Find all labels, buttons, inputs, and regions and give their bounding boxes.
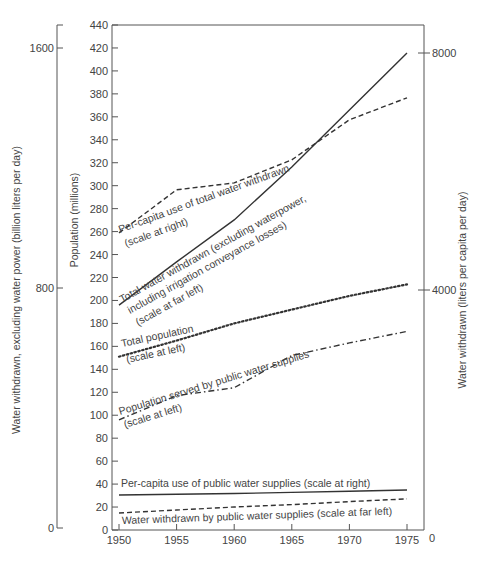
svg-text:800: 800 bbox=[36, 282, 54, 294]
x-axis-ticks bbox=[119, 524, 407, 530]
series-labels: Per-capita use of total water withdrawn … bbox=[117, 162, 393, 526]
left-axis-tick-label: 240 bbox=[90, 249, 108, 261]
far-left-axis bbox=[57, 25, 63, 528]
left-axis-tick-label: 40 bbox=[96, 478, 108, 490]
left-axis-tick-label: 420 bbox=[90, 42, 108, 54]
left-axis-tick-label: 200 bbox=[90, 294, 108, 306]
svg-text:0: 0 bbox=[48, 522, 54, 534]
left-axis-tick-label: 260 bbox=[90, 226, 108, 238]
svg-text:0: 0 bbox=[429, 532, 435, 544]
x-axis-tick-label: 1950 bbox=[107, 534, 131, 546]
x-axis-tick-label: 1955 bbox=[164, 534, 188, 546]
right-axis-title: Water withdrawn (liters per capita per d… bbox=[456, 192, 468, 389]
left-axis-ticks bbox=[112, 25, 118, 530]
left-axis-tick-label: 220 bbox=[90, 272, 108, 284]
left-axis-title: Population (millions) bbox=[68, 173, 80, 268]
x-axis-tick-label: 1975 bbox=[395, 534, 419, 546]
series-per-capita-public bbox=[119, 490, 407, 495]
left-axis-tick-label: 300 bbox=[90, 180, 108, 192]
svg-text:8000: 8000 bbox=[432, 47, 456, 59]
svg-text:1600: 1600 bbox=[30, 42, 54, 54]
left-axis-tick-labels: 0204060801001201401601802002202402602803… bbox=[90, 19, 108, 536]
label-total-withdrawn: Total water withdrawn (excluding waterpo… bbox=[117, 192, 308, 305]
label-public-withdrawn: Water withdrawn by public water supplies… bbox=[122, 505, 393, 526]
left-axis-tick-label: 180 bbox=[90, 317, 108, 329]
x-axis-tick-label: 1965 bbox=[280, 534, 304, 546]
left-axis-tick-label: 140 bbox=[90, 363, 108, 375]
left-axis-tick-label: 340 bbox=[90, 134, 108, 146]
left-axis-tick-label: 160 bbox=[90, 340, 108, 352]
label-per-capita-public: Per-capita use of public water supplies … bbox=[121, 477, 370, 489]
left-axis-tick-label: 380 bbox=[90, 88, 108, 100]
left-axis-tick-label: 440 bbox=[90, 19, 108, 31]
right-axis-tick-labels: 8000 4000 0 bbox=[429, 47, 456, 544]
left-axis-tick-label: 20 bbox=[96, 501, 108, 513]
x-axis-tick-label: 1960 bbox=[222, 534, 246, 546]
left-axis-tick-label: 100 bbox=[90, 409, 108, 421]
left-axis-tick-label: 120 bbox=[90, 386, 108, 398]
x-axis-tick-labels: 195019551960196519701975 bbox=[107, 534, 419, 546]
chart-canvas: 1600 800 0 Water withdrawn, excluding wa… bbox=[0, 0, 480, 562]
series-layer bbox=[119, 53, 407, 513]
svg-text:4000: 4000 bbox=[432, 284, 456, 296]
left-axis-tick-label: 360 bbox=[90, 111, 108, 123]
left-axis-tick-label: 280 bbox=[90, 203, 108, 215]
left-axis-tick-label: 400 bbox=[90, 65, 108, 77]
left-axis-tick-label: 60 bbox=[96, 455, 108, 467]
left-axis-tick-label: 80 bbox=[96, 432, 108, 444]
x-axis-tick-label: 1970 bbox=[337, 534, 361, 546]
left-axis-tick-label: 320 bbox=[90, 157, 108, 169]
far-left-tick-labels: 1600 800 0 bbox=[30, 42, 54, 534]
far-left-axis-title: Water withdrawn, excluding water power (… bbox=[10, 146, 22, 434]
